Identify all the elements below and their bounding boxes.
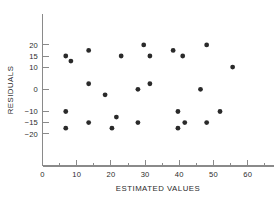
data-point xyxy=(141,43,146,48)
x-tick-label: 60 xyxy=(243,170,252,179)
y-tick-label: 20 xyxy=(29,41,38,50)
plot-area: 2015100−10−15−20 0102030405060 ESTIMATED… xyxy=(0,0,279,199)
y-tick-label: −15 xyxy=(25,118,38,127)
x-tick-label: 50 xyxy=(209,170,218,179)
x-tick-label: 30 xyxy=(141,170,150,179)
y-tick-label: −20 xyxy=(25,130,38,139)
y-axis-title: RESIDUALS xyxy=(6,66,15,115)
data-point xyxy=(63,54,68,59)
y-tick-label: 15 xyxy=(29,52,38,61)
data-point xyxy=(136,87,141,92)
data-point xyxy=(136,120,141,125)
y-tick-label: 10 xyxy=(29,63,38,72)
data-point xyxy=(180,54,185,59)
x-axis-ticks xyxy=(43,160,265,166)
y-tick-label: 0 xyxy=(34,85,38,94)
y-axis-tick-labels: 2015100−10−15−20 xyxy=(25,41,38,139)
data-point xyxy=(110,126,115,131)
data-point xyxy=(147,54,152,59)
data-point xyxy=(103,92,108,97)
data-point xyxy=(86,81,91,86)
data-point xyxy=(171,48,176,53)
data-point xyxy=(119,54,124,59)
y-tick-label: −10 xyxy=(25,107,38,116)
data-point xyxy=(218,109,223,114)
data-point xyxy=(147,81,152,86)
data-point xyxy=(204,43,209,48)
data-point xyxy=(68,59,73,64)
data-point xyxy=(176,126,181,131)
x-tick-label: 0 xyxy=(40,170,44,179)
scatter-chart: 2015100−10−15−20 0102030405060 ESTIMATED… xyxy=(0,0,279,199)
data-point xyxy=(182,120,187,125)
data-point xyxy=(63,109,68,114)
data-point xyxy=(86,48,91,53)
data-point xyxy=(204,120,209,125)
data-point xyxy=(198,87,203,92)
x-tick-label: 40 xyxy=(175,170,184,179)
data-point xyxy=(63,126,68,131)
data-point xyxy=(114,115,119,120)
data-point xyxy=(176,109,181,114)
x-axis-tick-labels: 0102030405060 xyxy=(40,170,252,179)
x-axis-title: ESTIMATED VALUES xyxy=(116,184,200,193)
axes xyxy=(43,14,275,166)
x-tick-label: 20 xyxy=(106,170,115,179)
y-axis-ticks xyxy=(43,45,49,134)
data-point xyxy=(230,65,235,70)
x-tick-label: 10 xyxy=(72,170,81,179)
data-point xyxy=(86,120,91,125)
data-points xyxy=(63,43,235,131)
